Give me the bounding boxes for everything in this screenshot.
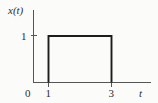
x-axis-label: t bbox=[139, 87, 143, 99]
rectangular-pulse-figure: x(t) 1 0 1 3 t bbox=[0, 0, 158, 103]
x-tick-label-3: 3 bbox=[109, 87, 115, 99]
plot-canvas: x(t) 1 0 1 3 t bbox=[0, 0, 158, 103]
origin-label: 0 bbox=[25, 87, 31, 99]
y-axis-label: x(t) bbox=[7, 4, 24, 17]
signal-waveform-rect-pulse bbox=[49, 36, 112, 83]
x-tick-label-1: 1 bbox=[46, 87, 52, 99]
y-tick-label-1: 1 bbox=[21, 30, 27, 42]
